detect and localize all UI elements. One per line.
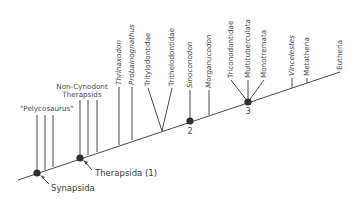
therapsida-node bbox=[76, 154, 83, 161]
taxon-multituberculata: Multituberculata bbox=[243, 19, 252, 78]
synapsida-label: Synapsida bbox=[51, 183, 95, 193]
cladogram-canvas: "Pelycosaurus" Non-Cynodont Therapsids T… bbox=[0, 0, 357, 203]
node-3 bbox=[244, 98, 251, 105]
pelycosaurus-label: "Pelycosaurus" bbox=[20, 104, 74, 113]
therapsida-label: Therapsida (1) bbox=[94, 168, 157, 178]
tritylodontidae-branch bbox=[148, 88, 162, 131]
synapsida-node bbox=[33, 169, 40, 176]
taxon-thrinaxodon: Thrinaxodon bbox=[114, 40, 123, 85]
taxon-eutheria: Eutheria bbox=[335, 40, 344, 70]
taxon-vincelestes: Vincelestes bbox=[287, 35, 296, 76]
taxon-trithelodontidae: Trithelodontidae bbox=[167, 27, 176, 87]
taxon-tritylodontidae: Tritylodontidae bbox=[143, 32, 152, 87]
cladogram: "Pelycosaurus" Non-Cynodont Therapsids T… bbox=[0, 0, 357, 203]
taxon-sinoconodon: Sinoconodon bbox=[185, 41, 194, 88]
synapsida-arrowhead bbox=[40, 175, 45, 179]
taxon-triconodontidae: Triconodontidae bbox=[226, 20, 235, 79]
triconodontidae-branch bbox=[231, 80, 248, 102]
trithelodontidae-branch bbox=[162, 88, 172, 131]
synapsida-arrow bbox=[43, 178, 49, 184]
taxon-morganucodon: Morganucodon bbox=[204, 34, 213, 88]
non-cynodont-label-line2: Therapsids bbox=[61, 90, 102, 99]
node-2 bbox=[186, 117, 193, 124]
taxon-metatheria: Metatheria bbox=[302, 37, 311, 76]
node-2-label: 2 bbox=[187, 127, 192, 136]
node-3-label: 3 bbox=[245, 107, 250, 116]
taxon-monotremata: Monotremata bbox=[259, 30, 268, 78]
taxon-probainognathus: Probainognathus bbox=[127, 24, 136, 85]
therapsida-arrow bbox=[86, 163, 92, 170]
